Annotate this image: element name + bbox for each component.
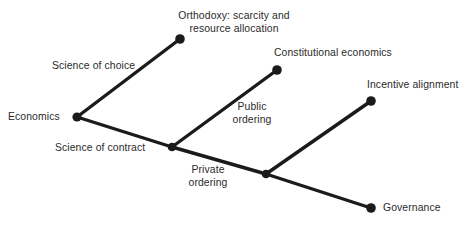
label-public-ordering-line1: Public <box>222 100 282 113</box>
edge-science-of-choice <box>77 39 180 117</box>
label-orthodoxy: Orthodoxy: scarcity and resource allocat… <box>154 9 314 35</box>
node-economics[interactable] <box>72 112 81 121</box>
label-orthodoxy-line2: resource allocation <box>154 22 314 35</box>
node-orthodoxy[interactable] <box>175 34 185 44</box>
label-science-of-contract: Science of contract <box>55 141 145 154</box>
label-private-ordering-line2: ordering <box>178 176 238 189</box>
label-public-ordering-line2: ordering <box>222 113 282 126</box>
label-private-ordering: Private ordering <box>178 163 238 189</box>
node-constitutional[interactable] <box>272 65 282 75</box>
label-constitutional-economics: Constitutional economics <box>274 46 392 59</box>
label-private-ordering-line1: Private <box>178 163 238 176</box>
node-governance[interactable] <box>366 203 376 213</box>
label-economics: Economics <box>8 110 60 123</box>
edge-governance <box>266 174 371 208</box>
label-public-ordering: Public ordering <box>222 100 282 126</box>
node-incentive[interactable] <box>366 96 376 106</box>
label-science-of-choice: Science of choice <box>52 59 135 72</box>
label-incentive-alignment: Incentive alignment <box>367 78 458 91</box>
node-junction-b[interactable] <box>262 170 271 179</box>
label-governance: Governance <box>383 201 441 214</box>
tree-diagram: Orthodoxy: scarcity and resource allocat… <box>0 0 471 227</box>
label-orthodoxy-line1: Orthodoxy: scarcity and <box>154 9 314 22</box>
node-junction-a[interactable] <box>168 143 177 152</box>
